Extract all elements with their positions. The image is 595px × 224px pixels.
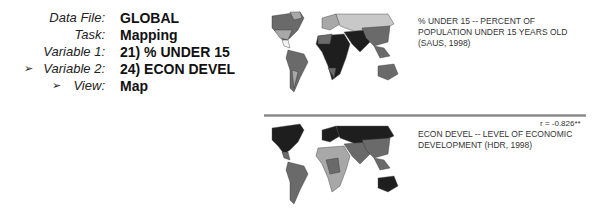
caption-line: DEVELOPMENT (HDR, 1998) (418, 140, 572, 151)
setting-data-file[interactable]: Data File: GLOBAL (0, 10, 260, 24)
setting-label: Data File: (0, 10, 105, 25)
caption-line: POPULATION UNDER 15 YEARS OLD (418, 27, 567, 38)
setting-view[interactable]: ➢ View: Map (0, 78, 260, 92)
setting-label: View: (0, 78, 105, 93)
setting-variable-2[interactable]: ➢ Variable 2: 24) ECON DEVEL (0, 61, 260, 75)
setting-value: Mapping (120, 27, 178, 43)
setting-value: GLOBAL (120, 10, 179, 26)
setting-task[interactable]: Task: Mapping (0, 27, 260, 41)
setting-label: Task: (0, 27, 105, 42)
setting-variable-1[interactable]: Variable 1: 21) % UNDER 15 (0, 44, 260, 58)
caption-line: (SAUS, 1998) (418, 38, 567, 49)
map-caption-under15: % UNDER 15 -- PERCENT OF POPULATION UNDE… (418, 16, 567, 49)
correlation-value: r = -0.826** (540, 119, 581, 128)
caption-line: % UNDER 15 -- PERCENT OF (418, 16, 567, 27)
setting-value: 24) ECON DEVEL (120, 61, 235, 77)
world-map-under15[interactable] (270, 8, 410, 98)
setting-label: Variable 2: (0, 61, 105, 76)
setting-value: Map (120, 78, 148, 94)
map-caption-econ-devel: ECON DEVEL -- LEVEL OF ECONOMIC DEVELOPM… (418, 129, 572, 151)
setting-label: Variable 1: (0, 44, 105, 59)
setting-value: 21) % UNDER 15 (120, 44, 230, 60)
divider (264, 114, 586, 117)
caption-line: ECON DEVEL -- LEVEL OF ECONOMIC (418, 129, 572, 140)
world-map-econ-devel[interactable] (270, 120, 410, 210)
